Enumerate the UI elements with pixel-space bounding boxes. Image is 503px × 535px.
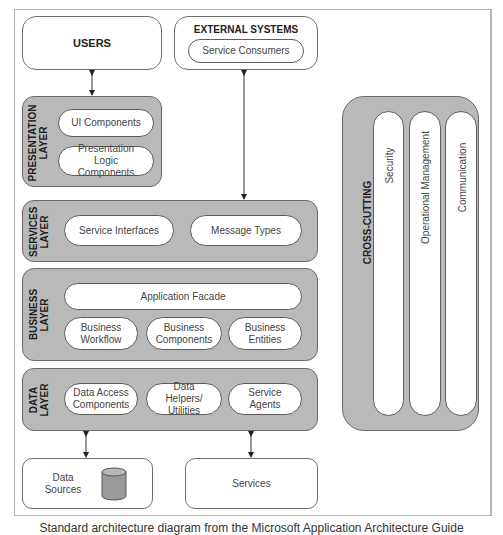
figure-caption: Standard architecture diagram from the M… <box>0 521 503 535</box>
